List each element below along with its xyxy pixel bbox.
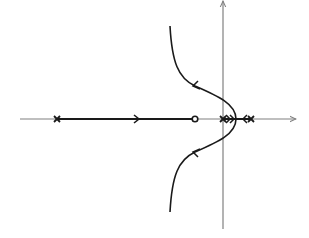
zeros	[192, 116, 198, 122]
root-locus-diagram	[0, 0, 309, 238]
zero-o-icon	[192, 116, 198, 122]
axes	[20, 1, 296, 229]
complex-branch-upper	[170, 26, 236, 119]
direction-arrow-downleft-icon	[193, 149, 200, 157]
direction-arrow-upleft-icon	[193, 81, 200, 89]
complex-branch-lower	[170, 119, 236, 212]
